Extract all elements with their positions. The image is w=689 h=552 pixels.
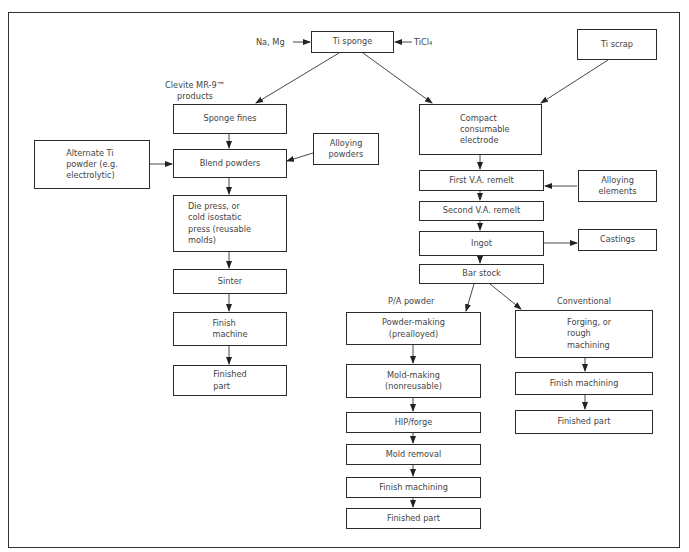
node-castings: Castings <box>578 229 657 251</box>
node-finished-part-pa: Finished part <box>346 508 481 529</box>
node-ingot: Ingot <box>419 231 544 256</box>
node-label: Ingot <box>471 238 492 249</box>
node-label: Alternate Ti powder (e.g. electrolytic) <box>66 148 118 181</box>
node-label: Finished part <box>387 513 440 524</box>
node-ti-scrap: Ti scrap <box>577 29 657 60</box>
node-label: Finish machine <box>212 318 247 340</box>
node-label: Forging, or rough machining <box>567 317 611 350</box>
node-sinter: Sinter <box>173 269 287 294</box>
node-alloying-elements: Alloying elements <box>578 170 657 202</box>
node-forging-rough-machining: Forging, or rough machining <box>515 310 653 358</box>
node-finish-machining-pa: Finish machining <box>346 477 481 498</box>
node-label: Bar stock <box>462 268 500 279</box>
conventional-label: Conventional <box>557 296 611 307</box>
node-label: Die press, or cold isostatic press (reus… <box>188 201 251 245</box>
node-finished-part-left: Finished part <box>173 365 287 396</box>
node-powder-making: Powder-making (prealloyed) <box>346 312 481 345</box>
node-label: Castings <box>600 234 635 245</box>
node-finish-machining-conv: Finish machining <box>515 372 653 395</box>
node-blend-powders: Blend powders <box>173 149 287 178</box>
node-label: First V.A. remelt <box>449 175 513 186</box>
node-label: Mold-making (nonreusable) <box>385 370 442 392</box>
node-label: Finish machining <box>550 378 619 389</box>
node-second-va-remelt: Second V.A. remelt <box>419 201 544 221</box>
node-alternate-ti-powder: Alternate Ti powder (e.g. electrolytic) <box>34 140 150 189</box>
node-label: Ti sponge <box>333 36 373 47</box>
node-alloying-powders: Alloying powders <box>313 133 379 165</box>
node-label: Alloying elements <box>598 175 636 197</box>
node-finished-part-conv: Finished part <box>515 410 653 434</box>
node-label: Blend powders <box>200 158 261 169</box>
node-label: Sponge fines <box>203 113 256 124</box>
node-label: Alloying powders <box>329 138 364 160</box>
node-label: HIP/forge <box>395 417 433 428</box>
node-bar-stock: Bar stock <box>419 264 544 284</box>
node-die-press: Die press, or cold isostatic press (reus… <box>173 195 287 252</box>
node-label: Compact consumable electrode <box>460 113 510 146</box>
node-label: Sinter <box>218 276 242 287</box>
node-compact-electrode: Compact consumable electrode <box>419 104 542 155</box>
node-label: Mold removal <box>386 449 442 460</box>
node-label: Finished part <box>213 369 247 391</box>
node-hip-forge: HIP/forge <box>346 412 481 433</box>
clevite-label: Clevite MR-9™ products <box>148 80 242 101</box>
node-first-va-remelt: First V.A. remelt <box>419 170 544 191</box>
node-label: Ti scrap <box>601 39 633 50</box>
node-label: Second V.A. remelt <box>443 205 520 216</box>
node-mold-making: Mold-making (nonreusable) <box>346 364 481 398</box>
input-label-na-mg: Na, Mg <box>256 37 285 48</box>
node-label: Finish machining <box>379 482 448 493</box>
pa-powder-label: P/A powder <box>388 296 434 307</box>
node-ti-sponge: Ti sponge <box>311 31 394 53</box>
node-mold-removal: Mold removal <box>346 444 481 465</box>
node-finish-machine: Finish machine <box>173 312 287 346</box>
node-label: Finished part <box>558 416 611 427</box>
node-label: Powder-making (prealloyed) <box>382 317 445 339</box>
input-label-ticl4: TiCl₄ <box>414 37 432 48</box>
flow-arrows <box>0 0 689 552</box>
node-sponge-fines: Sponge fines <box>173 104 287 134</box>
